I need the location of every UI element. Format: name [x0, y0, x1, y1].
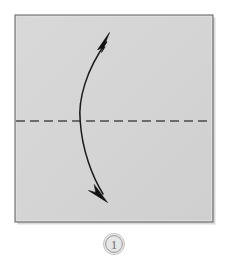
origami-diagram: 1 — [0, 0, 229, 260]
square-sheet — [15, 15, 213, 222]
diagram-canvas: 1 — [0, 0, 229, 260]
step-number-label: 1 — [111, 237, 118, 252]
